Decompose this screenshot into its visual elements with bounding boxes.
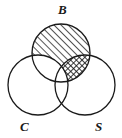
venn-diagram-svg bbox=[0, 0, 122, 138]
venn-diagram-figure: B C S bbox=[0, 0, 122, 138]
set-label-s: S bbox=[95, 120, 102, 133]
set-label-c: C bbox=[20, 120, 29, 133]
set-label-b: B bbox=[58, 3, 67, 16]
